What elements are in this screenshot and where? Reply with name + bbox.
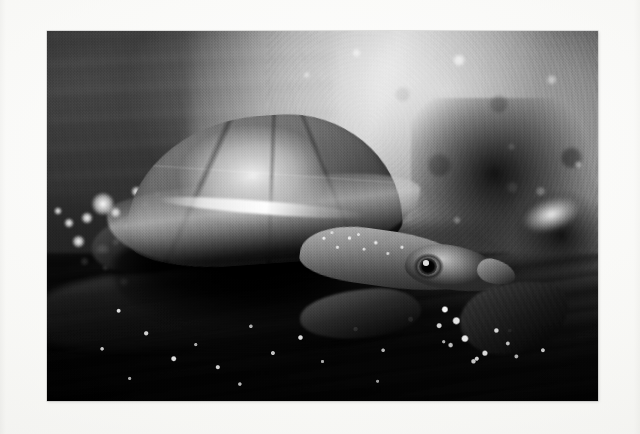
turtle [47, 31, 598, 401]
turtle-eye-glint [423, 260, 429, 266]
photo-page [0, 0, 640, 434]
turtle-claw-highlights [422, 290, 565, 371]
photograph [47, 31, 598, 401]
